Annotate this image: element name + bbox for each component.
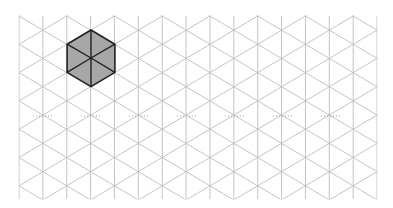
- highlighted-hexagon: [67, 30, 115, 87]
- grid-diagonal-line: [19, 200, 377, 208]
- isometric-grid-diagram: [0, 0, 393, 208]
- triangle-grid: [19, 0, 377, 208]
- grid-diagonal-line: [19, 0, 377, 2]
- grid-diagonal-line: [19, 0, 377, 16]
- grid-diagonal-line: [19, 0, 377, 172]
- grid-diagonal-line: [19, 143, 377, 208]
- grid-diagonal-line: [19, 0, 377, 186]
- grid-diagonal-line: [19, 0, 377, 200]
- grid-diagonal-line: [19, 0, 377, 30]
